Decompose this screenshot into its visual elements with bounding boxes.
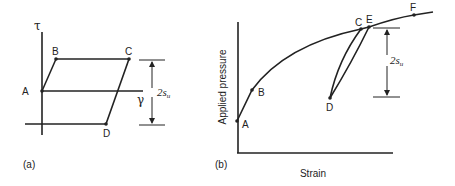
label-c: C [355, 17, 362, 28]
unloading-branch [330, 29, 361, 98]
panel-b: Applied pressure Strain A B C D E F 2su … [215, 2, 433, 179]
label-d: D [103, 128, 110, 139]
gamma-axis-label: γ [137, 93, 144, 107]
point-d [328, 96, 332, 100]
label-b: B [52, 46, 59, 57]
pressure-axis-label: Applied pressure [217, 49, 228, 124]
reloading-branch [330, 27, 369, 98]
label-e: E [366, 14, 373, 25]
caption-b: (b) [215, 159, 227, 170]
segment-ab [42, 59, 56, 91]
label-c: C [125, 46, 132, 57]
point-a [235, 119, 239, 123]
panel-a: τ γ A B C D 2su (a) [22, 19, 171, 170]
point-b [54, 57, 58, 61]
caption-a: (a) [23, 159, 35, 170]
label-d: D [326, 102, 333, 113]
tau-axis-label: τ [34, 19, 41, 33]
point-c [127, 57, 131, 61]
label-a: A [22, 86, 29, 97]
strain-axis-label: Strain [300, 168, 326, 179]
diagram-canvas: τ γ A B C D 2su (a) Applied pressure Str… [0, 0, 455, 186]
dimension-label: 2su [390, 54, 404, 68]
point-b [250, 88, 254, 92]
loading-curve [237, 29, 361, 121]
point-d [104, 122, 108, 126]
dimension-label: 2su [157, 86, 171, 100]
label-a: A [242, 119, 249, 130]
label-f: F [410, 2, 416, 13]
point-f [412, 13, 416, 17]
point-a [40, 89, 44, 93]
point-e [367, 25, 371, 29]
label-b: B [258, 87, 265, 98]
